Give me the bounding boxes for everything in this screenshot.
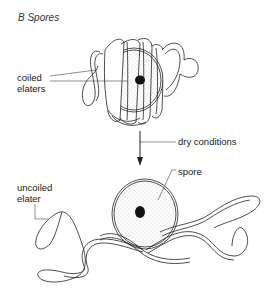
spore-coiled: [82, 38, 198, 125]
arrow-down: [137, 131, 176, 166]
nucleus-bottom: [135, 206, 145, 218]
leader-uncoiled-elater: [35, 204, 48, 219]
spore-diagram: [0, 0, 271, 299]
spore-uncoiled: [36, 179, 260, 282]
